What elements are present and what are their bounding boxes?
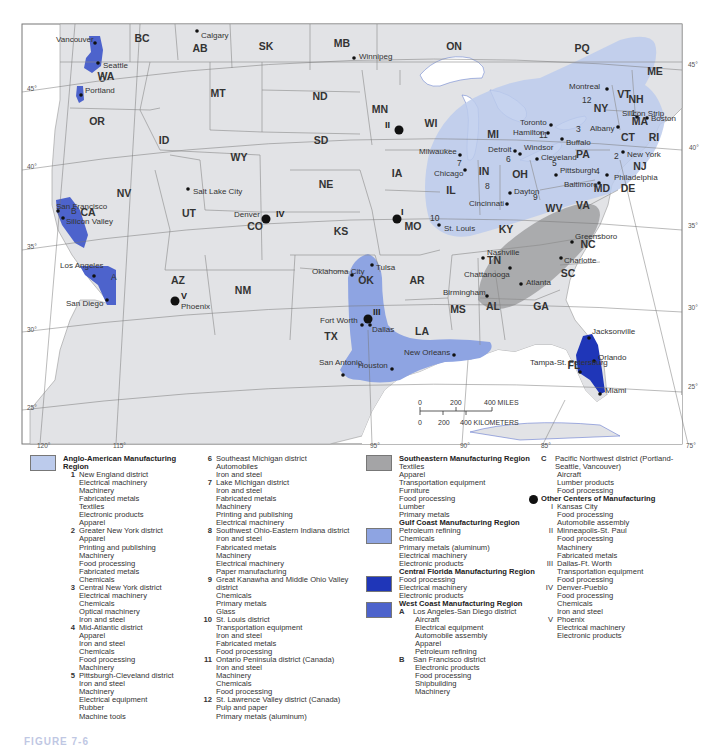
svg-text:0: 0 xyxy=(418,419,422,426)
district-number: 7 xyxy=(457,158,462,168)
latitude-label: 35° xyxy=(27,243,37,250)
district-letter: B xyxy=(71,206,77,216)
city-dot-icon xyxy=(79,93,83,97)
center-roman-numeral: IV xyxy=(541,584,553,592)
swatch-anglo-american xyxy=(30,455,56,471)
district-number: 6 xyxy=(200,455,212,463)
city-label: New York xyxy=(627,150,662,159)
city-label: Fort Worth xyxy=(320,316,358,325)
city-label: Vancouver xyxy=(56,35,94,44)
city-dot-icon xyxy=(186,187,190,191)
state-label: VA xyxy=(576,199,590,211)
legend-district: 9Great Kanawha and Middle Ohio Valley di… xyxy=(200,576,365,592)
city-dot-icon xyxy=(598,392,602,396)
city-dot-icon xyxy=(519,282,523,286)
longitude-label: 85° xyxy=(541,442,551,449)
legend-other-centers-header: Other Centers of Manufacturing xyxy=(541,495,709,503)
latitude-label: 45° xyxy=(27,85,37,92)
state-label: MN xyxy=(372,103,388,115)
state-label: AZ xyxy=(171,274,186,286)
city-dot-icon xyxy=(390,367,394,371)
latitude-label: 35° xyxy=(688,222,698,229)
city-label: Pittsburgh xyxy=(560,166,596,175)
district-number: 1 xyxy=(63,471,75,479)
city-label: Houston xyxy=(358,361,388,370)
state-label: BC xyxy=(134,32,150,44)
city-dot-icon xyxy=(481,256,485,260)
latitude-label: 25° xyxy=(27,404,37,411)
map-legend: Anglo-American Manufacturing Region 1New… xyxy=(0,455,709,725)
legend-col4: CPacific Northwest district (Portland-Se… xyxy=(541,455,709,640)
city-dot-icon xyxy=(518,152,522,156)
state-label: IN xyxy=(479,165,490,177)
legend-title-other-centers: Other Centers of Manufacturing xyxy=(541,494,655,503)
longitude-label: 90° xyxy=(460,442,470,449)
city-label: San Diego xyxy=(66,299,104,308)
city-label: Charlotte xyxy=(564,256,597,265)
city-dot-icon xyxy=(96,61,100,65)
svg-text:0: 0 xyxy=(418,399,422,406)
svg-text:200: 200 xyxy=(438,419,450,426)
city-dot-icon xyxy=(452,353,456,357)
city-dot-icon xyxy=(61,216,65,220)
city-dot-icon xyxy=(92,274,96,278)
state-label: CA xyxy=(80,206,96,218)
state-label: TX xyxy=(324,330,337,342)
latitude-label: 45° xyxy=(688,61,698,68)
city-label: Toronto xyxy=(520,118,547,127)
city-label: Calgary xyxy=(201,31,229,40)
district-number: 11 xyxy=(539,130,548,140)
city-label: Montreal xyxy=(569,82,600,91)
state-label: CT xyxy=(621,131,636,143)
district-number: 3 xyxy=(576,124,581,134)
latitude-label: 25° xyxy=(688,383,698,390)
city-dot-icon xyxy=(587,336,591,340)
city-label: Dallas xyxy=(372,325,394,334)
district-letter: C xyxy=(541,455,551,471)
state-label: NC xyxy=(580,238,596,250)
figure-caption: FIGURE 7-6 xyxy=(24,736,89,746)
state-label: SK xyxy=(259,40,274,52)
city-dot-icon xyxy=(549,123,553,127)
city-dot-icon xyxy=(554,173,558,177)
city-label: Detroit xyxy=(488,145,512,154)
center-roman-numeral: V xyxy=(541,616,553,624)
legend-item: Electronic products xyxy=(541,632,709,640)
district-number: 4 xyxy=(595,166,600,176)
longitude-label: 75° xyxy=(686,442,696,449)
state-label: MO xyxy=(405,220,422,232)
city-label: Silicon Valley xyxy=(66,217,113,226)
state-label: TN xyxy=(487,254,501,266)
city-label: Portland xyxy=(85,86,115,95)
state-label: KY xyxy=(499,223,514,235)
district-number: 2 xyxy=(63,527,75,535)
district-number: 11 xyxy=(200,656,212,664)
state-label: NH xyxy=(628,93,643,105)
center-roman-numeral: I xyxy=(541,503,553,511)
city-label: Oklahoma City xyxy=(312,267,364,276)
state-label: SD xyxy=(314,134,329,146)
state-label: GA xyxy=(533,300,549,312)
district-number: 12 xyxy=(200,696,212,704)
state-label: NM xyxy=(235,284,252,296)
city-dot-icon xyxy=(341,373,345,377)
city-label: Albany xyxy=(590,124,614,133)
district-number: 8 xyxy=(485,181,490,191)
legend-item: Machinery xyxy=(399,688,549,696)
latitude-label: 40° xyxy=(27,163,37,170)
center-roman-numeral: III xyxy=(541,560,553,568)
swatch-central-florida xyxy=(366,576,392,592)
manufacturing-center-dot-icon xyxy=(364,315,373,324)
city-dot-icon xyxy=(616,125,620,129)
state-label: OH xyxy=(512,168,528,180)
legend-district: CPacific Northwest district (Portland-Se… xyxy=(541,455,709,471)
legend-anglo-american-col2: 6Southeast Michigan districtAutomobilesI… xyxy=(200,455,365,721)
city-label: Seattle xyxy=(103,61,128,70)
state-label: ND xyxy=(312,90,328,102)
district-number: 10 xyxy=(430,213,440,223)
state-label: DE xyxy=(621,182,636,194)
state-label: AB xyxy=(192,42,208,54)
city-label: Miami xyxy=(605,386,627,395)
city-label: Atlanta xyxy=(526,278,551,287)
city-dot-icon xyxy=(93,41,97,45)
